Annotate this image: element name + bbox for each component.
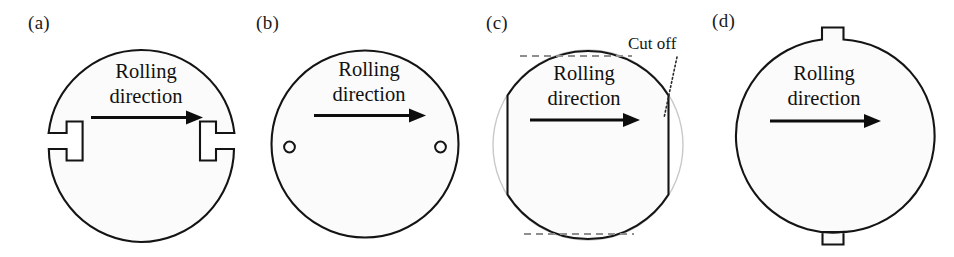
left-hole-b (284, 142, 295, 153)
rolling-text-line2-c: direction (548, 87, 621, 109)
rolling-text-line1-d: Rolling (793, 62, 855, 85)
rolling-text-line2-d: direction (788, 87, 861, 109)
panel-d: (d) Rolling direction (700, 0, 954, 257)
panel-a: (a) Rolling direction (0, 0, 250, 257)
disc-with-top-bottom-tabs-outline (736, 28, 935, 245)
cut-off-annotation: Cut off (628, 34, 676, 54)
panel-b: (b) Rolling direction (232, 0, 482, 257)
rolling-text-line2-a: direction (110, 85, 183, 107)
panel-c-label: (c) (486, 12, 508, 34)
figure-canvas: (a) Rolling direction (b) Rolling direct… (0, 0, 954, 257)
panel-b-drawing: Rolling direction (232, 0, 482, 257)
panel-d-label: (d) (712, 10, 735, 32)
rolling-text-line1-b: Rolling (338, 58, 400, 81)
rolling-text-line1-a: Rolling (115, 60, 177, 83)
right-hole-b (435, 142, 446, 153)
panel-a-label: (a) (28, 12, 50, 34)
panel-d-drawing: Rolling direction (700, 0, 954, 257)
panel-a-drawing: Rolling direction (0, 0, 250, 257)
rolling-text-line2-b: direction (333, 83, 406, 105)
rolling-text-line1-c: Rolling (553, 62, 615, 85)
panel-b-label: (b) (256, 12, 279, 34)
